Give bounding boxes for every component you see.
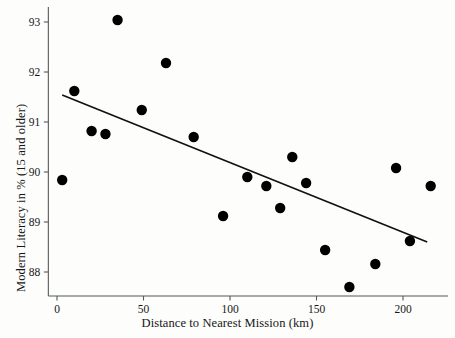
data-point	[69, 86, 79, 96]
x-tick-label: 200	[394, 303, 411, 315]
y-tick-label: 93	[29, 16, 41, 28]
x-tick-label: 150	[308, 303, 325, 315]
fit-line-segment	[62, 95, 427, 242]
data-point	[261, 181, 271, 191]
y-axis-title: Modern Literacy in % (15 and older)	[14, 104, 29, 292]
data-point	[112, 15, 122, 25]
data-point	[275, 203, 285, 213]
data-point	[405, 236, 415, 246]
data-point	[137, 105, 147, 115]
data-point	[301, 178, 311, 188]
y-tick-label: 88	[29, 266, 41, 278]
y-tick-label: 91	[29, 116, 41, 128]
data-point	[425, 181, 435, 191]
data-point	[57, 175, 67, 185]
axes-group	[44, 7, 448, 301]
x-tick-label: 50	[138, 303, 150, 315]
x-tick-label: 100	[221, 303, 238, 315]
data-point	[218, 211, 228, 221]
data-point	[242, 172, 252, 182]
data-point	[320, 245, 330, 255]
data-point	[100, 129, 110, 139]
data-point	[86, 126, 96, 136]
y-tick-label: 90	[29, 166, 41, 178]
y-tick-label: 92	[29, 66, 41, 78]
data-point	[344, 282, 354, 292]
data-point	[370, 259, 380, 269]
regression-line	[62, 95, 427, 242]
x-axis-title: Distance to Nearest Mission (km)	[0, 316, 455, 331]
y-tick-label: 89	[29, 216, 41, 228]
data-point	[161, 58, 171, 68]
scatter-plot-figure: 050100150200 888990919293 Distance to Ne…	[0, 0, 455, 338]
data-point	[391, 163, 401, 173]
data-point	[287, 152, 297, 162]
x-tick-label: 0	[54, 303, 60, 315]
data-point	[188, 132, 198, 142]
plot-canvas	[0, 0, 455, 338]
data-points-group	[57, 15, 436, 292]
